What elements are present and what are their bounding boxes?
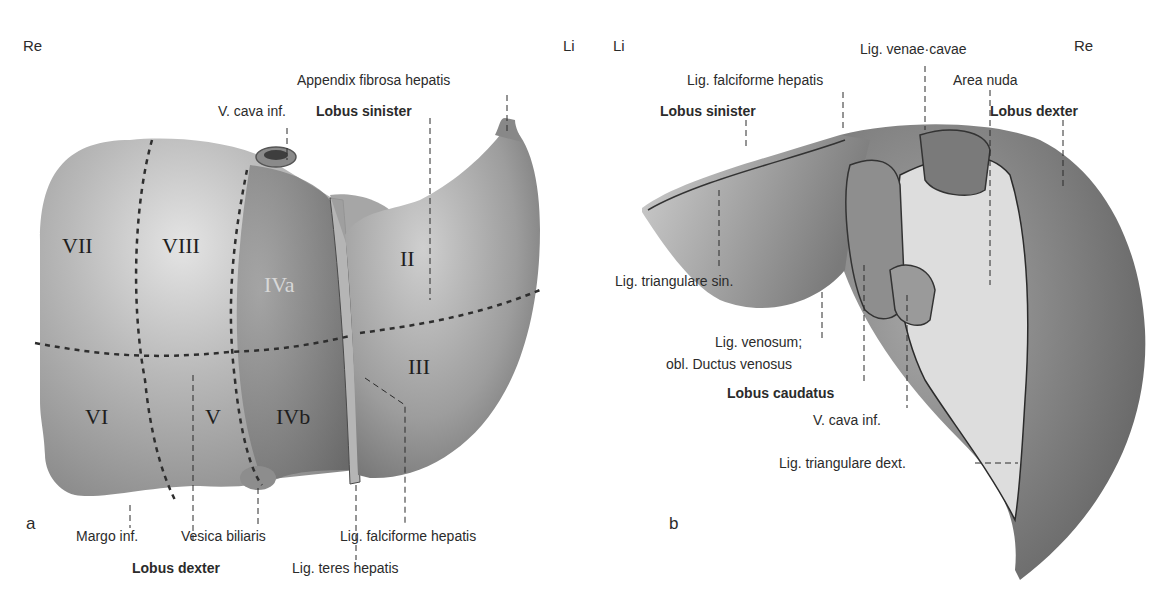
- orientation-label-right-side-a: Re: [23, 38, 42, 54]
- segment-V: V: [205, 404, 221, 429]
- label-lobus-sinister-b: Lobus sinister: [660, 103, 756, 119]
- label-lig-falciforme-hepatis-a: Lig. falciforme hepatis: [340, 528, 476, 544]
- label-obl-ductus-venosus: obl. Ductus venosus: [666, 356, 792, 372]
- v-cava-b-shape: [920, 130, 990, 195]
- segment-IVb: IVb: [276, 404, 310, 429]
- liver-anterior-view: VII VIII IVa II III VI V IVb: [35, 95, 540, 560]
- orientation-label-left-side-a: Li: [563, 38, 575, 54]
- segment-VI: VI: [85, 404, 108, 429]
- label-area-nuda: Area nuda: [953, 72, 1018, 88]
- label-lig-triangulare-dext: Lig. triangulare dext.: [779, 455, 906, 471]
- label-lig-triangulare-sin: Lig. triangulare sin.: [615, 273, 733, 289]
- label-vesica-biliaris: Vesica biliaris: [181, 528, 266, 544]
- panel-letter-b: b: [669, 516, 678, 532]
- label-margo-inf: Margo inf.: [76, 528, 138, 544]
- label-lobus-dexter-a: Lobus dexter: [132, 560, 220, 576]
- panel-letter-a: a: [26, 516, 35, 532]
- label-lig-falciforme-hepatis-b: Lig. falciforme hepatis: [687, 72, 823, 88]
- orientation-label-left-side-b: Li: [613, 38, 625, 54]
- label-v-cava-inf-b: V. cava inf.: [813, 412, 881, 428]
- label-lig-venosum: Lig. venosum;: [715, 334, 802, 350]
- segment-IVa: IVa: [264, 272, 295, 297]
- segment-VII: VII: [62, 233, 93, 258]
- orientation-label-right-side-b: Re: [1074, 38, 1093, 54]
- segment-III: III: [408, 354, 430, 379]
- label-v-cava-inf-a: V. cava inf.: [218, 103, 286, 119]
- segment-VIII: VIII: [162, 233, 200, 258]
- label-lobus-caudatus: Lobus caudatus: [727, 385, 834, 401]
- label-lobus-dexter-b: Lobus dexter: [990, 103, 1078, 119]
- liver-posterior-view: [642, 66, 1145, 580]
- label-lig-teres-hepatis: Lig. teres hepatis: [292, 560, 399, 576]
- liver-illustration: VII VIII IVa II III VI V IVb: [0, 0, 1158, 601]
- label-appendix-fibrosa-hepatis: Appendix fibrosa hepatis: [297, 72, 450, 88]
- area-nuda-shape: [896, 156, 1028, 520]
- label-lobus-sinister-a: Lobus sinister: [316, 103, 412, 119]
- segment-II: II: [400, 246, 415, 271]
- label-lig-venae-cavae: Lig. venae·cavae: [860, 41, 967, 57]
